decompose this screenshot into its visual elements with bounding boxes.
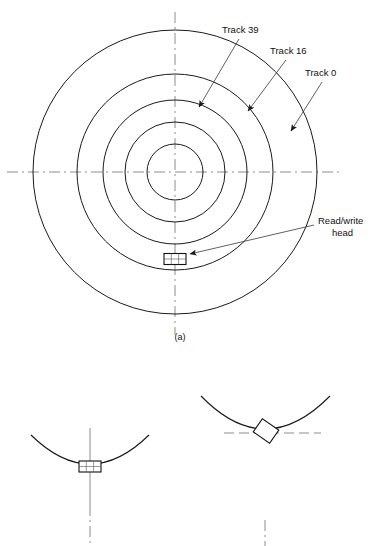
read-write-head-platter [164, 254, 186, 265]
disk-platter-group: Track 39 Track 16 Track 0 Read/write hea… [7, 12, 363, 335]
subfigure-left-group [31, 428, 149, 546]
read-write-head-left [79, 461, 101, 472]
subfigure-right-group [201, 396, 330, 546]
label-read-write-head-line2: head [332, 227, 353, 238]
read-write-head-right [253, 419, 279, 444]
label-track-16: Track 16 [270, 45, 307, 56]
head-outline-right [253, 419, 279, 444]
label-track-39: Track 39 [222, 24, 259, 35]
leader-track-0 [291, 82, 322, 131]
disk-track-diagram: Track 39 Track 16 Track 0 Read/write hea… [0, 0, 381, 546]
leader-track-39 [199, 39, 239, 107]
label-track-0: Track 0 [305, 67, 336, 78]
label-read-write-head-line1: Read/write [318, 215, 363, 226]
leader-read-write-head [190, 225, 314, 254]
caption-a: (a) [175, 332, 186, 342]
figure-container: Track 39 Track 16 Track 0 Read/write hea… [0, 0, 381, 546]
leader-track-16 [248, 60, 286, 111]
